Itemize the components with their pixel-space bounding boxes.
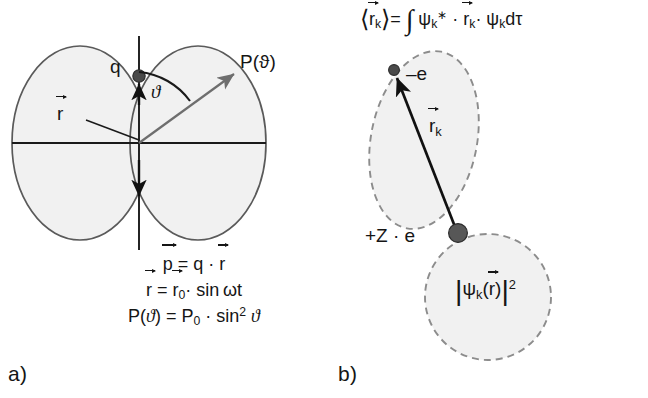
radiated-power-label: P(ϑ) (240, 52, 276, 71)
formula-radiated-power: P(ϑ) = P0 · sin2 ϑ (84, 304, 304, 331)
electron-dot (389, 65, 400, 76)
panel-b-label: b) (338, 363, 357, 384)
angle-label: ϑ (151, 82, 160, 101)
panel-a-label: a) (8, 363, 27, 384)
formula-dipole-moment: p = q · r (84, 252, 304, 278)
nucleus-label: +Z · e (365, 226, 415, 245)
probability-density-label: |ψk(r)|2 (455, 276, 516, 305)
physics-figure (0, 0, 648, 398)
panel-a-diagram (12, 36, 266, 250)
radius-vector-label: r (57, 104, 63, 123)
charge-label: q (110, 57, 121, 76)
nucleus-dot (449, 224, 468, 243)
electron-label: –e (406, 64, 427, 83)
panel-b-diagram (355, 42, 551, 360)
formula-oscillation: r = r0· sin ωt (84, 278, 304, 305)
expectation-value-equation: ⟨rk⟩= ∫ ψk∗ · rk· ψkdτ (360, 6, 522, 34)
panel-a-formula-block: p = q · r r = r0· sin ωt P(ϑ) = P0 · sin… (84, 252, 304, 331)
rk-vector-label: rk (429, 116, 442, 139)
